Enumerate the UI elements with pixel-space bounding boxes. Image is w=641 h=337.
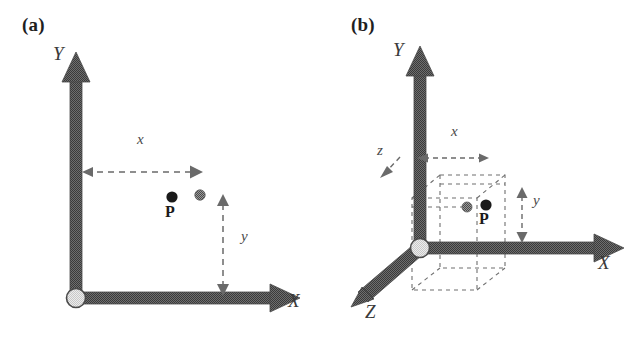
panel-a-y-axis — [62, 52, 90, 300]
panel-b-y-axis — [406, 46, 434, 250]
figure-canvas — [0, 0, 641, 337]
panel-a-x-axis — [70, 284, 300, 312]
panel-b-tag: (b) — [351, 14, 375, 36]
panel-b-origin-marker — [411, 239, 430, 258]
panel-a-y-dimension-arrow — [217, 194, 229, 296]
panel-b-projection-marker — [462, 202, 472, 212]
panel-a-axis-label-y: Y — [53, 43, 64, 65]
panel-b-axis-label-x: X — [598, 252, 610, 274]
panel-b-point-label-p: P — [479, 210, 489, 228]
panel-b-dimension-label-x: x — [451, 123, 458, 140]
panel-a-graphics — [62, 52, 300, 312]
panel-b-x-dimension-arrow — [417, 154, 489, 163]
panel-b-graphics — [351, 46, 624, 307]
panel-b-dimension-label-y: y — [533, 192, 540, 209]
figure-root: (a) Y X x y P (b) Y X Z x y z P — [0, 0, 641, 337]
panel-b-axis-label-y: Y — [393, 39, 404, 61]
panel-b-point-p-marker — [480, 199, 491, 210]
panel-a-point-label-p: P — [165, 203, 175, 221]
panel-b-dimension-label-z: z — [377, 142, 383, 159]
panel-a-dimension-label-x: x — [137, 131, 144, 148]
panel-b-y-dimension-arrow — [517, 187, 528, 243]
panel-a-projection-marker — [195, 190, 205, 200]
panel-b-axis-label-z: Z — [365, 301, 376, 323]
panel-a-dimension-label-y: y — [241, 228, 248, 245]
panel-a-x-dimension-arrow — [82, 166, 203, 179]
panel-b-x-axis — [414, 234, 624, 262]
panel-a-axis-label-x: X — [288, 290, 300, 312]
panel-b-z-dimension-arrow — [380, 157, 400, 178]
panel-a-tag: (a) — [22, 14, 45, 36]
panel-a-origin-marker — [67, 289, 86, 308]
panel-a-point-p-marker — [166, 191, 177, 202]
